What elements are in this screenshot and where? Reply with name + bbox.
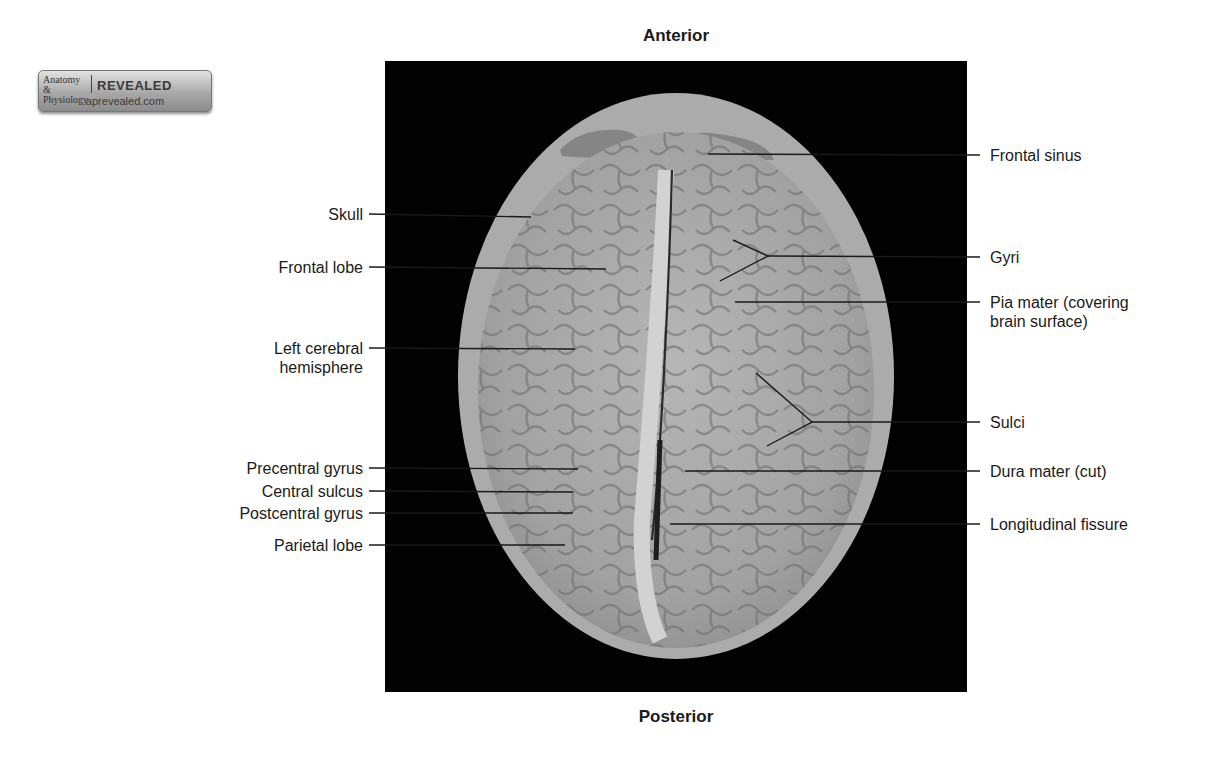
- label-parietal-lobe: Parietal lobe: [274, 536, 363, 555]
- label-central-sulcus: Central sulcus: [262, 482, 363, 501]
- label-precentral-gyrus: Precentral gyrus: [247, 459, 364, 478]
- label-skull: Skull: [328, 205, 363, 224]
- brain-hemispheres: [478, 132, 874, 648]
- label-line: Left cerebral: [274, 339, 363, 358]
- label-sulci: Sulci: [990, 413, 1025, 432]
- label-gyri: Gyri: [990, 248, 1019, 267]
- label-line: hemisphere: [274, 358, 363, 377]
- label-line: Pia mater (covering: [990, 293, 1129, 312]
- label-postcentral-gyrus: Postcentral gyrus: [239, 504, 363, 523]
- label-dura-mater: Dura mater (cut): [990, 462, 1106, 481]
- label-longitudinal-fissure: Longitudinal fissure: [990, 515, 1128, 534]
- label-frontal-lobe: Frontal lobe: [279, 258, 364, 277]
- label-line: brain surface): [990, 312, 1129, 331]
- brain-illustration: [0, 0, 1213, 762]
- label-frontal-sinus: Frontal sinus: [990, 146, 1082, 165]
- label-pia-mater: Pia mater (covering brain surface): [990, 293, 1129, 331]
- label-left-cerebral-hemisphere: Left cerebral hemisphere: [274, 339, 363, 377]
